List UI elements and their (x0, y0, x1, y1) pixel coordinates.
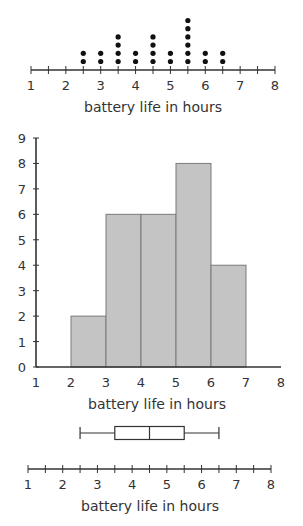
data-dot (116, 43, 121, 48)
box-plot-xlabel: battery life in hours (81, 498, 219, 514)
data-dot (116, 51, 121, 56)
data-dot (168, 59, 173, 64)
histogram-bar (211, 265, 246, 367)
dot-plot-tick-label: 2 (62, 78, 70, 93)
data-dot (185, 43, 190, 48)
dot-plot-tick-label: 4 (131, 78, 139, 93)
charts-canvas: 12345678battery life in hours 0123456789… (0, 0, 303, 526)
histogram-bar (106, 214, 141, 367)
histogram-y-tick-label: 5 (18, 233, 26, 248)
data-dot (168, 51, 173, 56)
dot-plot-tick-label: 5 (166, 78, 174, 93)
data-dot (185, 18, 190, 23)
histogram-y-tick-label: 4 (18, 258, 26, 273)
box-plot-tick-label: 3 (93, 477, 101, 492)
data-dot (185, 59, 190, 64)
data-dot (185, 26, 190, 31)
data-dot (116, 59, 121, 64)
data-dot (220, 59, 225, 64)
data-dot (98, 51, 103, 56)
box-plot-tick-label: 4 (128, 477, 136, 492)
dot-plot: 12345678battery life in hours (27, 18, 279, 115)
histogram-x-tick-label: 5 (172, 375, 180, 390)
data-dot (150, 34, 155, 39)
box-plot-tick-label: 8 (267, 477, 275, 492)
dot-plot-tick-label: 7 (236, 78, 244, 93)
data-dot (150, 43, 155, 48)
box-plot-tick-label: 1 (24, 477, 32, 492)
histogram-xlabel: battery life in hours (88, 396, 226, 412)
histogram-x-tick-label: 1 (32, 375, 40, 390)
histogram-x-tick-label: 7 (242, 375, 250, 390)
data-dot (150, 51, 155, 56)
data-dot (116, 34, 121, 39)
box-plot-tick-label: 5 (163, 477, 171, 492)
data-dot (185, 34, 190, 39)
histogram-x-tick-label: 3 (102, 375, 110, 390)
box-plot-tick-label: 6 (197, 477, 205, 492)
data-dot (220, 51, 225, 56)
histogram-y-tick-label: 2 (18, 309, 26, 324)
dot-plot-tick-label: 6 (201, 78, 209, 93)
data-dot (185, 51, 190, 56)
histogram-y-tick-label: 3 (18, 284, 26, 299)
histogram-y-tick-label: 0 (18, 360, 26, 375)
histogram-bar (176, 163, 211, 367)
data-dot (133, 59, 138, 64)
data-dot (203, 51, 208, 56)
dot-plot-tick-label: 3 (97, 78, 105, 93)
histogram-x-tick-label: 6 (207, 375, 215, 390)
data-dot (81, 59, 86, 64)
data-dot (203, 59, 208, 64)
data-dot (81, 51, 86, 56)
histogram-y-tick-label: 7 (18, 182, 26, 197)
data-dot (133, 51, 138, 56)
histogram-x-tick-label: 4 (137, 375, 145, 390)
data-dot (150, 59, 155, 64)
box-plot: 12345678battery life in hours (24, 427, 275, 515)
data-dot (98, 59, 103, 64)
histogram-bar (141, 214, 176, 367)
histogram-y-tick-label: 8 (18, 156, 26, 171)
histogram: 012345678912345678battery life in hours (18, 131, 285, 412)
histogram-x-tick-label: 2 (67, 375, 75, 390)
dot-plot-tick-label: 8 (271, 78, 279, 93)
box-plot-tick-label: 7 (232, 477, 240, 492)
histogram-y-tick-label: 1 (18, 335, 26, 350)
dot-plot-xlabel: battery life in hours (84, 99, 222, 115)
dot-plot-tick-label: 1 (27, 78, 35, 93)
histogram-bar (71, 316, 106, 367)
histogram-x-tick-label: 8 (277, 375, 285, 390)
histogram-y-tick-label: 9 (18, 131, 26, 146)
histogram-y-tick-label: 6 (18, 207, 26, 222)
box-plot-tick-label: 2 (59, 477, 67, 492)
